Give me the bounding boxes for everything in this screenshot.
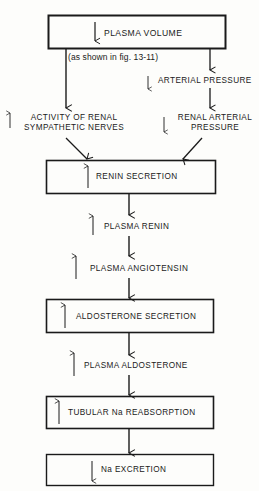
label-plasma-renin: PLASMA RENIN: [104, 222, 169, 232]
label-plasma-volume: PLASMA VOLUME: [104, 28, 182, 38]
renin-aldosterone-flowchart: PLASMA VOLUME (as shown in fig. 13-11) A…: [0, 0, 259, 491]
label-tubular-reabsorption: TUBULAR Na REABSORPTION: [68, 408, 196, 418]
label-plasma-angiotensin: PLASMA ANGIOTENSIN: [90, 264, 188, 274]
label-renal-arterial-line1: RENAL ARTERIAL: [170, 113, 259, 123]
label-aldosterone-secretion: ALDOSTERONE SECRETION: [76, 312, 196, 322]
label-na-excretion: Na EXCRETION: [101, 465, 166, 475]
label-renin-secretion: RENIN SECRETION: [96, 172, 178, 182]
label-renal-arterial-line2: PRESSURE: [170, 123, 259, 133]
label-note: (as shown in fig. 13-11): [68, 52, 158, 62]
label-sympathetic-line1: ACTIVITY OF RENAL: [14, 113, 134, 123]
label-sympathetic-line2: SYMPATHETIC NERVES: [14, 123, 134, 133]
label-plasma-aldosterone: PLASMA ALDOSTERONE: [84, 361, 188, 371]
label-arterial-pressure: ARTERIAL PRESSURE: [158, 76, 252, 86]
